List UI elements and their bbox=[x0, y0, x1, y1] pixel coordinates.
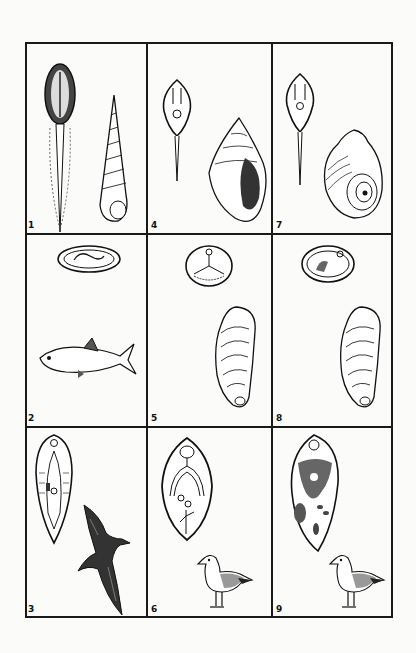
column-divider-2 bbox=[271, 42, 273, 618]
panel-number: 9 bbox=[276, 604, 282, 614]
whelk-snail-icon bbox=[205, 118, 271, 228]
cercaria-icon bbox=[283, 70, 317, 185]
fish-icon bbox=[36, 336, 138, 378]
panel-number: 4 bbox=[151, 220, 157, 230]
panel-number: 5 bbox=[151, 413, 157, 423]
panel-number: 8 bbox=[276, 413, 282, 423]
column-divider-1 bbox=[146, 42, 148, 618]
panel-number: 1 bbox=[28, 220, 34, 230]
cercaria-icon bbox=[42, 62, 82, 232]
panel-number: 3 bbox=[28, 604, 34, 614]
gull-icon bbox=[326, 552, 386, 610]
seabird-in-flight-icon bbox=[78, 505, 138, 617]
periwinkle-snail-icon bbox=[318, 130, 386, 220]
gull-icon bbox=[194, 552, 254, 610]
metacercaria-cyst-icon bbox=[184, 244, 234, 288]
cercaria-icon bbox=[160, 76, 194, 181]
panel-number: 7 bbox=[276, 220, 282, 230]
panel-number: 6 bbox=[151, 604, 157, 614]
metacercaria-cyst-icon bbox=[56, 244, 122, 274]
mussel-icon bbox=[213, 305, 259, 411]
row-divider-2 bbox=[25, 426, 393, 428]
adult-fluke-icon bbox=[286, 433, 342, 553]
turret-snail-icon bbox=[92, 95, 132, 225]
panel-number: 2 bbox=[28, 413, 34, 423]
metacercaria-cyst-icon bbox=[300, 244, 356, 284]
adult-fluke-icon bbox=[160, 436, 214, 542]
row-divider-1 bbox=[25, 233, 393, 235]
mussel-icon bbox=[338, 305, 384, 411]
adult-fluke-icon bbox=[34, 433, 74, 545]
